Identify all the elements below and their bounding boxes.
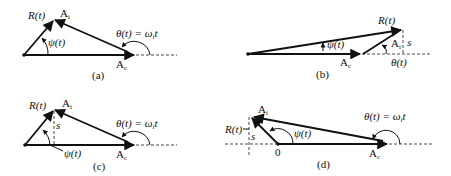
phasor-figure: R(t) Ai ψ(t) Ac θ(t) = ωit (a) R(t) Ai s… <box>0 0 451 176</box>
label-carrier: Ac <box>116 148 127 162</box>
label-carrier: Ac <box>340 56 351 70</box>
label-interference: Ai <box>258 103 268 117</box>
label-theta: θ(t) = ωit <box>116 27 158 41</box>
label-interference: Ai <box>62 97 72 111</box>
panel-a: R(t) Ai ψ(t) Ac θ(t) = ωit (a) <box>22 7 177 82</box>
label-carrier: Ac <box>369 147 380 161</box>
label-psi: ψ(t) <box>48 36 66 49</box>
label-interference: Ai <box>60 7 70 21</box>
panel-c: R(t) Ai s ψ(t) Ac θ(t) = ωit (c) <box>23 97 177 173</box>
resultant-phasor <box>248 30 401 54</box>
label-s: s <box>251 130 255 142</box>
label-resultant: R(t) <box>224 123 242 136</box>
label-psi: ψ(t) <box>294 127 312 140</box>
label-carrier: Ac <box>116 58 127 72</box>
label-resultant: R(t) <box>28 99 46 112</box>
label-interference: Ai <box>391 37 401 51</box>
label-resultant: R(t) <box>27 9 45 22</box>
theta-arc <box>122 131 150 145</box>
theta-arc <box>122 41 150 55</box>
panel-d: Ai R(t) s ψ(t) 0 Ac θ(t) = ωit (d) <box>224 103 432 171</box>
theta-arc <box>382 45 386 54</box>
label-psi: ψ(t) <box>327 38 345 51</box>
panel-b: R(t) Ai s ψ(t) Ac θ(t) (b) <box>246 14 432 81</box>
label-origin: 0 <box>275 146 281 158</box>
theta-arc <box>373 130 400 144</box>
psi-arc <box>270 129 293 144</box>
label-resultant: R(t) <box>377 14 395 27</box>
psi-arc <box>43 130 50 145</box>
caption-c: (c) <box>93 160 106 173</box>
caption-d: (d) <box>317 158 330 171</box>
label-psi: ψ(t) <box>64 147 82 160</box>
label-theta: θ(t) = ωit <box>364 110 406 124</box>
label-theta: θ(t) <box>391 56 407 69</box>
label-theta: θ(t) = ωit <box>116 117 158 131</box>
resultant-phasor <box>252 118 278 144</box>
label-s: s <box>56 119 60 131</box>
label-s: s <box>407 36 411 48</box>
caption-b: (b) <box>316 68 329 81</box>
caption-a: (a) <box>92 69 105 82</box>
